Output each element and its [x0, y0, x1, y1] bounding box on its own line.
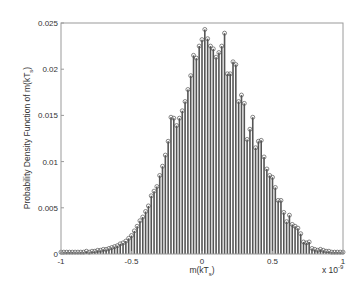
- y-tick-label: 0.01: [42, 158, 58, 167]
- pdf-stem-chart: -1-0.500.51 00.0050.010.0150.020.025 m(k…: [0, 0, 361, 292]
- x-tick-label: -0.5: [125, 257, 139, 266]
- y-axis-label: Probability Density Function of m(kTs): [22, 67, 34, 210]
- y-tick-label: 0.005: [38, 204, 59, 213]
- y-tick-label: 0: [54, 250, 59, 259]
- y-tick-label: 0.02: [42, 65, 58, 74]
- x-tick-label: -1: [57, 257, 65, 266]
- y-tick-label: 0.015: [38, 111, 59, 120]
- x-axis-exponent: x 10-9: [322, 264, 344, 275]
- stem-series: [59, 27, 345, 254]
- y-tick-label: 0.025: [38, 19, 59, 28]
- x-axis-label: m(kTs): [189, 265, 214, 277]
- y-axis-ticks: 00.0050.010.0150.020.025: [38, 19, 64, 259]
- x-tick-label: 0.5: [267, 257, 279, 266]
